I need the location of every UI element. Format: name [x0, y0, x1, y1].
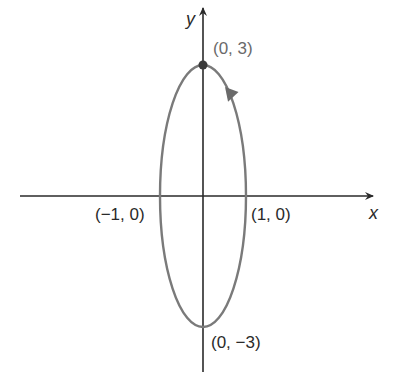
diagram-canvas [0, 0, 401, 379]
start-point-marker [199, 61, 208, 70]
direction-arrow-icon [223, 87, 239, 103]
x-axis-label: x [369, 204, 378, 222]
point-label-bottom: (0, −3) [211, 334, 261, 351]
point-label-left: (−1, 0) [95, 206, 145, 223]
point-label-right: (1, 0) [251, 206, 291, 223]
point-label-top: (0, 3) [213, 40, 253, 57]
y-axis-label: y [186, 10, 195, 28]
